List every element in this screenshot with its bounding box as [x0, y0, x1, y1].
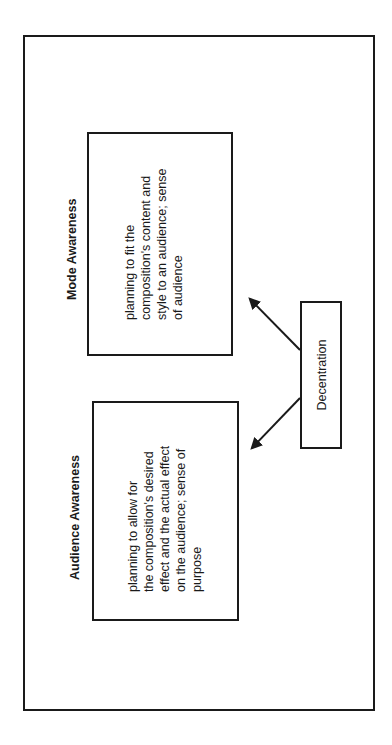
audience-line-4: on the audience; sense of: [174, 448, 188, 592]
audience-line-5: purpose: [190, 547, 204, 592]
mode-line-1: planning to fit the: [123, 225, 137, 320]
audience-awareness-title: Audience Awareness: [68, 455, 82, 580]
mode-line-3: style to an audience; sense: [155, 168, 169, 320]
decentration-label: Decentration: [315, 340, 329, 411]
mode-awareness-title: Mode Awareness: [65, 199, 79, 300]
mode-line-2: composition's content and: [139, 176, 153, 320]
mode-line-4: of audience: [171, 255, 185, 320]
diagram-canvas: Mode Awareness planning to fit the compo…: [0, 0, 392, 745]
audience-line-2: the composition's desired: [142, 451, 156, 592]
audience-line-3: effect and the actual effect: [158, 445, 172, 592]
audience-line-1: planning to allow for: [126, 481, 140, 592]
